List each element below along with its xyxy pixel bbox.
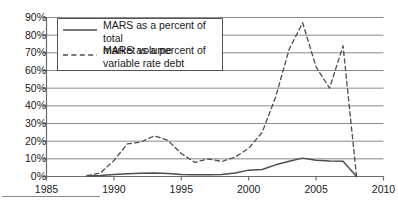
x-axis-label-1985: 1985 bbox=[35, 184, 58, 195]
mars-percentage-line-chart: 0%10%20%30%40%50%60%70%80%90% 1985199019… bbox=[0, 0, 398, 207]
x-axis-label-2005: 2005 bbox=[304, 184, 327, 195]
legend-swatch-dashed-line-icon bbox=[63, 50, 97, 60]
x-axis-label-1995: 1995 bbox=[170, 184, 193, 195]
legend-label-variable-rate-debt: MARS as a percent of variable rate debt bbox=[103, 44, 223, 69]
legend-entry-variable-rate-debt: MARS as a percent of variable rate debt bbox=[58, 45, 222, 71]
legend-label-line1: MARS as a percent of total bbox=[103, 19, 206, 44]
chart-legend: MARS as a percent of total market volume… bbox=[57, 18, 223, 71]
legend-label-line2: variable rate debt bbox=[103, 57, 184, 69]
legend-label-line1: MARS as a percent of bbox=[103, 44, 206, 56]
x-axis-label-2000: 2000 bbox=[237, 184, 260, 195]
x-axis-label-2010: 2010 bbox=[372, 184, 395, 195]
x-axis-label-1990: 1990 bbox=[102, 184, 125, 195]
legend-entry-total-market-volume: MARS as a percent of total market volume bbox=[58, 20, 222, 46]
legend-swatch-solid-line-icon bbox=[63, 25, 97, 35]
footer-divider-rule bbox=[2, 196, 100, 197]
